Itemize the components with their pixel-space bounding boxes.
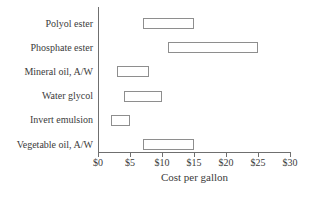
x-tick-label: $20	[209, 157, 243, 169]
x-tick-label: $0	[81, 157, 115, 169]
category-label: Phosphate ester	[0, 42, 93, 54]
cost-per-gallon-range-chart: Polyol esterPhosphate esterMineral oil, …	[0, 0, 310, 197]
x-tick-label: $25	[241, 157, 275, 169]
x-axis-title: Cost per gallon	[98, 171, 291, 183]
category-label: Polyol ester	[0, 18, 93, 30]
range-bar	[111, 115, 130, 126]
range-bar	[143, 139, 194, 150]
category-label: Vegetable oil, A/W	[0, 139, 93, 151]
category-label: Invert emulsion	[0, 114, 93, 126]
x-tick-label: $15	[177, 157, 211, 169]
range-bar	[168, 42, 258, 53]
x-tick-label: $10	[145, 157, 179, 169]
range-bar	[117, 66, 149, 77]
y-axis-line	[98, 7, 99, 153]
category-label: Mineral oil, A/W	[0, 66, 93, 78]
range-bar	[143, 18, 194, 29]
category-label: Water glycol	[0, 90, 93, 102]
x-tick-label: $5	[113, 157, 147, 169]
x-tick-label: $30	[273, 157, 307, 169]
range-bar	[124, 91, 162, 102]
